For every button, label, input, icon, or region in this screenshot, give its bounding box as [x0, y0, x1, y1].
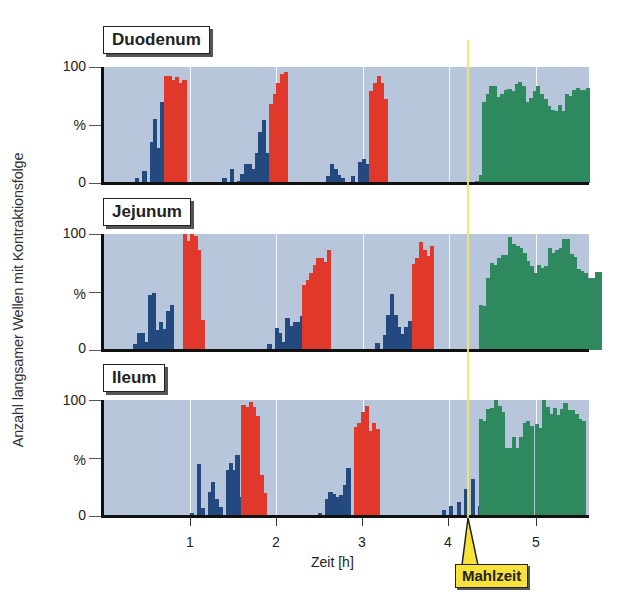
meal-label: Mahlzeit [455, 564, 528, 588]
histogram-bar [346, 468, 350, 516]
x-tick-label: 5 [526, 534, 546, 550]
histogram-bar [384, 99, 388, 183]
panel-jejunum [103, 234, 589, 350]
panel-title-jejunum: Jejunum [103, 198, 191, 226]
y-axis-line [101, 400, 104, 516]
meal-marker-line [467, 40, 469, 520]
x-axis-line [101, 349, 589, 352]
meal-callout-pointer-icon [452, 516, 486, 568]
y-tick [89, 183, 101, 184]
panel-ileum [103, 400, 589, 516]
panel-title-ileum: Ileum [103, 364, 165, 392]
histogram-bar [471, 479, 475, 516]
x-tick [276, 517, 277, 526]
panel-duodenum [103, 67, 589, 183]
x-tick [362, 517, 363, 526]
x-tick-label: 3 [352, 534, 372, 550]
x-axis-line [101, 515, 589, 518]
x-tick-label: 2 [266, 534, 286, 550]
y-tick [89, 292, 101, 293]
histogram-bar [598, 272, 602, 350]
histogram-bar [586, 88, 590, 183]
grid-line [363, 234, 364, 350]
histogram-bar [235, 455, 239, 516]
y-axis-line [101, 67, 104, 183]
histogram-bar [201, 320, 205, 350]
y-axis-line [101, 234, 104, 350]
grid-line [449, 67, 450, 183]
y-axis-title: Anzahl langsamer Wellen mit Kontraktions… [10, 110, 30, 490]
histogram-bar [263, 493, 267, 516]
x-tick [536, 517, 537, 526]
y-tick [89, 400, 101, 401]
histogram-bar [582, 421, 586, 516]
grid-line [276, 400, 277, 516]
y-tick [89, 125, 101, 126]
histogram-bar [430, 246, 434, 350]
histogram-bar [457, 502, 461, 516]
panel-title-duodenum: Duodenum [103, 26, 210, 54]
histogram-bar [230, 169, 234, 183]
x-tick [448, 517, 449, 526]
x-tick-label: 1 [180, 534, 200, 550]
grid-line [449, 400, 450, 516]
x-axis-title: Zeit [h] [311, 554, 354, 570]
histogram-bar [170, 305, 174, 350]
y-tick [89, 67, 101, 68]
histogram-bar [182, 80, 186, 183]
histogram-bar [375, 429, 379, 516]
grid-line [449, 234, 450, 350]
y-tick [89, 234, 101, 235]
grid-line [190, 67, 191, 183]
x-axis-line [101, 182, 589, 185]
y-tick [89, 458, 101, 459]
grid-line [190, 400, 191, 516]
x-tick [190, 517, 191, 526]
y-tick [89, 516, 101, 517]
histogram-bar [327, 250, 331, 350]
histogram-bar [284, 72, 288, 183]
histogram-bar [530, 426, 534, 516]
y-tick [89, 350, 101, 351]
